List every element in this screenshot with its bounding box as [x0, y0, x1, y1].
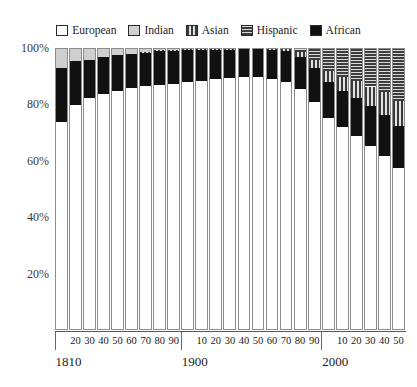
x-axis-decade-label: 30	[84, 335, 95, 346]
x-axis-decade-label: 20	[211, 335, 222, 346]
x-axis: 1810190020002030405060708090102030405060…	[0, 0, 417, 387]
century-separator	[55, 332, 56, 350]
x-axis-decade-label: 10	[197, 335, 208, 346]
x-axis-decade-label: 40	[379, 335, 390, 346]
century-separator	[321, 332, 322, 350]
x-axis-century-label: 1810	[56, 354, 82, 370]
century-separator	[181, 332, 182, 350]
x-axis-decade-label: 90	[309, 335, 320, 346]
x-axis-decade-label: 80	[154, 335, 165, 346]
x-axis-decade-label: 70	[140, 335, 151, 346]
x-axis-decade-label: 30	[225, 335, 236, 346]
x-axis-line	[55, 331, 406, 332]
x-axis-decade-label: 40	[239, 335, 250, 346]
x-axis-decade-label: 40	[98, 335, 109, 346]
x-axis-decade-label: 60	[126, 335, 137, 346]
x-axis-decade-label: 50	[393, 335, 404, 346]
x-axis-decade-label: 60	[267, 335, 278, 346]
x-axis-decade-label: 70	[281, 335, 292, 346]
x-axis-decade-label: 50	[253, 335, 264, 346]
chart-root: EuropeanIndianAsianHispanicAfrican 20%40…	[0, 0, 417, 387]
x-axis-decade-label: 10	[337, 335, 348, 346]
x-axis-century-label: 1900	[182, 354, 208, 370]
x-axis-decade-label: 50	[112, 335, 123, 346]
x-axis-decade-label: 90	[168, 335, 179, 346]
x-axis-decade-label: 80	[295, 335, 306, 346]
x-axis-century-label: 2000	[322, 354, 348, 370]
x-axis-decade-label: 30	[365, 335, 376, 346]
x-axis-decade-label: 20	[70, 335, 81, 346]
x-axis-decade-label: 20	[351, 335, 362, 346]
